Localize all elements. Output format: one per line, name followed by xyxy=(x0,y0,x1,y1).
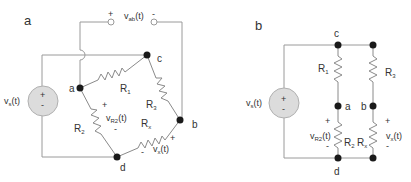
source-a-plus: + xyxy=(40,90,45,100)
node-bottom-right-b xyxy=(370,155,377,162)
panel-a-label: a xyxy=(24,13,32,28)
source-a-label: vs(t) xyxy=(4,96,20,107)
wire-a-top-right xyxy=(157,22,182,119)
node-d-a xyxy=(114,154,121,161)
vr2-plus-b: + xyxy=(325,116,330,126)
vr2-plus-a: + xyxy=(102,100,107,110)
vab-minus: - xyxy=(152,9,155,19)
vab-label: vab(t) xyxy=(124,11,144,22)
resistor-r2-b xyxy=(334,106,342,158)
node-c-label-b: c xyxy=(334,28,339,39)
r1-label-b: R1 xyxy=(318,63,329,75)
terminal-minus xyxy=(151,19,157,25)
source-b-label: vs(t) xyxy=(246,98,262,109)
r3-label-b: R3 xyxy=(385,67,396,79)
node-a-b xyxy=(335,103,342,110)
source-b-plus: + xyxy=(281,94,286,104)
source-b-minus: - xyxy=(282,104,285,114)
vx-plus-a: + xyxy=(170,133,175,143)
vr2-minus-b: - xyxy=(326,141,329,151)
node-c-b xyxy=(335,42,342,49)
panel-b: b + - vs(t) R1 R3 R2 + - vR2(t) Rx + - v… xyxy=(246,18,402,177)
node-b-b xyxy=(370,103,377,110)
vx-minus-a: - xyxy=(141,147,144,157)
vx-label-b: vx(t) xyxy=(386,131,402,142)
node-top-right-b xyxy=(370,42,377,49)
panel-a: a + - vab(t) + - vs(t) R1 R3 R2 + - vR2(… xyxy=(4,9,198,173)
node-d-label-a: d xyxy=(120,162,126,173)
r2-label-a: R2 xyxy=(74,123,85,135)
vab-plus: + xyxy=(108,9,113,19)
node-b-a xyxy=(177,117,184,124)
vx-plus-b: + xyxy=(385,116,390,126)
r1-label-a: R1 xyxy=(120,83,131,95)
resistor-r1-a xyxy=(80,55,147,88)
vr2-label-a: vR2(t) xyxy=(106,113,127,124)
vr2-label-b: vR2(t) xyxy=(310,131,331,142)
node-c-label-a: c xyxy=(157,53,162,64)
source-a-minus: - xyxy=(41,100,44,110)
terminal-plus xyxy=(108,19,114,25)
node-b-label-a: b xyxy=(192,119,198,130)
panel-b-label: b xyxy=(255,18,262,33)
resistor-rx-b xyxy=(369,106,377,158)
node-d-label-b: d xyxy=(334,166,340,177)
r2-label-b: R2 xyxy=(344,137,355,149)
node-c-a xyxy=(144,52,151,59)
vx-minus-b: - xyxy=(386,141,389,151)
rx-label-a: Rx xyxy=(141,118,151,130)
circuit-figure: a + - vab(t) + - vs(t) R1 R3 R2 + - vR2(… xyxy=(0,0,411,182)
node-b-label-b: b xyxy=(361,101,367,112)
vx-label-a: vx(t) xyxy=(153,144,169,155)
resistor-r3-b xyxy=(369,45,377,106)
node-a-label-a: a xyxy=(69,83,75,94)
node-d-b xyxy=(335,155,342,162)
r3-label-a: R3 xyxy=(146,99,157,111)
node-a-label-b: a xyxy=(345,101,351,112)
resistor-r3-a xyxy=(147,55,180,120)
rx-label-b: Rx xyxy=(357,137,367,149)
resistor-r1-b xyxy=(334,45,342,106)
node-a-a xyxy=(77,85,84,92)
vr2-minus-a: - xyxy=(114,124,117,134)
